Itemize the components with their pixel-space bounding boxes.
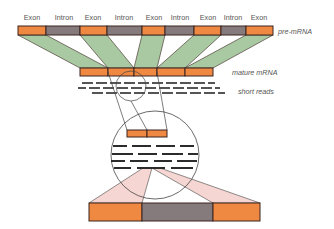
zoom-fan-right [152, 168, 260, 203]
mature-mrna-label: mature mRNA [232, 68, 278, 77]
magnifier-connector [108, 71, 167, 130]
segment-label: Intron [55, 13, 73, 22]
pre-mrna-intron-3 [165, 26, 194, 35]
pre-mrna-intron-4 [221, 26, 246, 35]
mature-exon-3 [134, 68, 157, 76]
segment-label: Exon [200, 13, 216, 22]
pre-mrna-label: pre-mRNA [277, 27, 312, 36]
bottom-intron [142, 203, 213, 221]
pre-mrna-intron-1 [46, 26, 80, 35]
mature-exon-1 [80, 68, 108, 76]
bottom-bar [89, 203, 260, 221]
pre-mrna-exon-2 [80, 26, 107, 35]
pre-mrna-exon-1 [18, 26, 46, 35]
splice-fan-3 [134, 35, 165, 68]
short-reads [78, 83, 225, 93]
bottom-exon-left [89, 203, 142, 221]
inset-exon-right [147, 130, 167, 137]
zoom-fan-left [89, 168, 152, 203]
short-reads-label: short reads [238, 87, 274, 96]
segment-label: Exon [85, 13, 101, 22]
bottom-exon-right [213, 203, 260, 221]
segment-labels: Exon Intron Exon Intron Exon Intron Exon… [24, 13, 267, 22]
segment-label: Exon [251, 13, 267, 22]
segment-label: Intron [115, 13, 133, 22]
splice-fans [18, 35, 273, 68]
mature-exon-5 [185, 68, 213, 76]
pre-mrna-exon-4 [194, 26, 221, 35]
pre-mrna-intron-2 [107, 26, 142, 35]
inset-exon-left [127, 130, 147, 137]
inset-reads [111, 146, 198, 168]
pre-mrna-exon-3 [142, 26, 165, 35]
splicing-diagram: Exon Intron Exon Intron Exon Intron Exon… [0, 0, 334, 229]
mature-exon-4 [157, 68, 185, 76]
pre-mrna-bar [18, 26, 273, 35]
segment-label: Exon [24, 13, 40, 22]
segment-label: Intron [224, 13, 242, 22]
mature-mrna-bar [80, 68, 213, 76]
segment-label: Intron [171, 13, 189, 22]
pre-mrna-exon-5 [246, 26, 273, 35]
segment-label: Exon [146, 13, 162, 22]
inset-junction [127, 130, 167, 137]
